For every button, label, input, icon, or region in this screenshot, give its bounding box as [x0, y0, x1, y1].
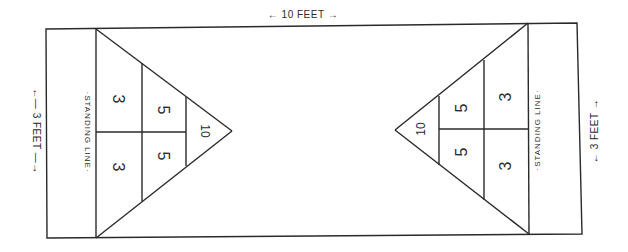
shuffleboard-court-diagram: ← 10 FEET → ←— 3 FEET —→ ← 3 FEET → ·STA…	[0, 0, 628, 252]
right-score-middle-top: 5	[453, 103, 470, 112]
width-dimension-label-left: ←— 3 FEET —→	[31, 88, 42, 173]
left-standing-line-label: ·STANDING LINE·	[83, 91, 92, 172]
left-score-outer-top: 3	[110, 95, 127, 104]
right-standing-line	[528, 23, 529, 234]
right-triangle-top-edge	[395, 23, 528, 130]
width-dimension-label-right: ← 3 FEET →	[589, 99, 600, 163]
right-triangle-bottom-edge	[395, 130, 529, 234]
court-outline	[46, 23, 582, 238]
right-score-outer-top: 3	[497, 92, 514, 101]
length-dimension-label: ← 10 FEET →	[268, 9, 338, 20]
right-score-tip: 10	[414, 122, 428, 136]
right-score-middle-bottom: 5	[453, 147, 470, 156]
left-score-middle-bottom: 5	[155, 152, 172, 161]
left-triangle-top-edge	[96, 29, 232, 131]
right-standing-line-label: ·STANDING LINE·	[533, 89, 542, 170]
left-score-tip: 10	[198, 124, 212, 138]
right-score-outer-bottom: 3	[497, 161, 514, 170]
left-score-middle-top: 5	[155, 106, 172, 115]
left-score-outer-bottom: 3	[110, 163, 127, 172]
left-triangle-bottom-edge	[96, 131, 232, 238]
